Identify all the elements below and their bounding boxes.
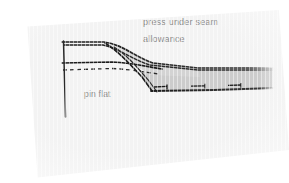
seam-allowance-fold-wedge <box>106 44 200 77</box>
vertical-pin-line <box>64 41 66 117</box>
label-allowance: allowance <box>143 34 185 44</box>
diagram-artwork <box>0 0 289 183</box>
scanned-diagram-image: press under seam allowance pin flat <box>0 0 289 183</box>
band-right-fade <box>258 68 278 88</box>
label-press-under-seam: press under seam <box>143 17 218 27</box>
label-pin-flat: pin flat <box>84 89 111 99</box>
upper-fabric-edge-line <box>62 42 274 68</box>
